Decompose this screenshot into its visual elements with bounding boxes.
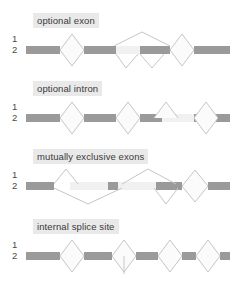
exon-bar	[220, 252, 230, 260]
exon-skip-arch	[114, 32, 170, 46]
intron-diamond	[60, 102, 84, 134]
exon-bar	[140, 46, 170, 54]
splice-peak-above	[54, 169, 78, 184]
intron-diamond	[196, 240, 220, 272]
exon-bar	[84, 114, 116, 122]
isoform-row-1-label: 1	[12, 170, 26, 181]
exon-bar	[84, 46, 116, 54]
intron-diamond	[170, 34, 194, 66]
isoform-row-1-label: 1	[12, 34, 26, 45]
exon-bar	[208, 182, 230, 190]
exon-bar	[26, 182, 54, 190]
splice-v-below	[140, 54, 164, 68]
isoform-row-numbers: 1 2	[12, 34, 26, 55]
panel-title-optional-intron: optional intron	[33, 81, 102, 96]
exon-bar	[218, 114, 230, 122]
exon-bar	[194, 46, 230, 54]
isoform-row-2-label: 2	[12, 45, 26, 56]
isoform-row-1-label: 1	[12, 102, 26, 113]
isoform-row-2-label: 2	[12, 251, 26, 262]
splicing-track-mutually-exclusive-exons	[26, 166, 230, 206]
isoform-row-1-label: 1	[12, 240, 26, 251]
figure-canvas: optional exon 1 2	[0, 0, 234, 282]
splice-v-below	[154, 188, 178, 204]
intron-diamond	[116, 102, 140, 134]
isoform-row-numbers: 1 2	[12, 240, 26, 261]
panel-title-internal-splice-site: internal splice site	[33, 219, 119, 234]
exon-bar	[182, 252, 196, 260]
intron-diamond	[182, 170, 208, 202]
splice-crossing-line	[54, 188, 122, 204]
panel-internal-splice-site: internal splice site 1 2	[0, 210, 234, 280]
intron-diamond	[60, 34, 84, 66]
panel-title-mutually-exclusive-exons: mutually exclusive exons	[33, 149, 148, 164]
exon-bar	[136, 252, 158, 260]
exon-bar	[26, 252, 60, 260]
optional-exon-bar	[116, 46, 140, 54]
exon-bar	[26, 114, 60, 122]
intron-diamond	[60, 240, 84, 272]
splicing-track-internal-splice-site	[26, 236, 230, 276]
exon-bar	[156, 182, 182, 190]
panel-optional-exon: optional exon 1 2	[0, 4, 234, 74]
panel-title-optional-exon: optional exon	[33, 13, 99, 28]
isoform-row-numbers: 1 2	[12, 170, 26, 191]
optional-intron-triangle	[154, 102, 178, 118]
isoform-row-numbers: 1 2	[12, 102, 26, 123]
panel-optional-intron: optional intron 1 2	[0, 72, 234, 142]
splice-peak-above	[122, 169, 176, 184]
isoform-row-2-label: 2	[12, 181, 26, 192]
splicing-track-optional-intron	[26, 98, 230, 138]
panel-mutually-exclusive-exons: mutually exclusive exons 1 2	[0, 140, 234, 210]
exon-bar	[26, 46, 60, 54]
mutually-exclusive-exon-bar	[70, 182, 108, 190]
exon-bar	[108, 182, 118, 190]
splice-v-below	[116, 54, 138, 68]
exon-bar	[84, 252, 112, 260]
intron-diamond	[194, 102, 218, 134]
intron-diamond	[158, 240, 182, 272]
isoform-row-2-label: 2	[12, 113, 26, 124]
splicing-track-optional-exon	[26, 30, 230, 70]
